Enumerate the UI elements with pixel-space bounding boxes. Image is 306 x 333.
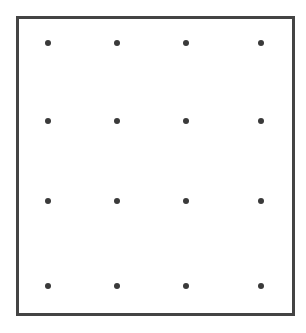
- grid-dot-r3-c3: [183, 198, 189, 204]
- grid-dot-r3-c4: [258, 198, 264, 204]
- grid-dot-r1-c3: [183, 40, 189, 46]
- grid-dot-r4-c2: [114, 283, 120, 289]
- grid-dot-r2-c4: [258, 118, 264, 124]
- grid-frame: [16, 16, 295, 316]
- grid-dot-r4-c3: [183, 283, 189, 289]
- grid-dot-r3-c1: [45, 198, 51, 204]
- grid-dot-r4-c1: [45, 283, 51, 289]
- grid-dot-r2-c2: [114, 118, 120, 124]
- grid-dot-r1-c4: [258, 40, 264, 46]
- grid-dot-r4-c4: [258, 283, 264, 289]
- grid-dot-r2-c3: [183, 118, 189, 124]
- grid-dot-r1-c1: [45, 40, 51, 46]
- grid-dot-r3-c2: [114, 198, 120, 204]
- grid-dot-r1-c2: [114, 40, 120, 46]
- grid-dot-r2-c1: [45, 118, 51, 124]
